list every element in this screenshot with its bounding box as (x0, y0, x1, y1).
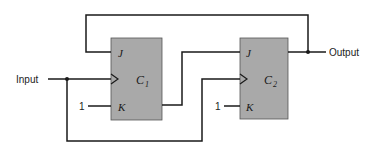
output-junction (306, 50, 310, 54)
c2-k-value: 1 (215, 101, 221, 112)
c1-k-pin: K (117, 101, 126, 113)
c2-subscript: 2 (273, 80, 277, 89)
circuit-diagram: Input Output 1 1 J K C 1 J K C 2 (0, 0, 380, 150)
c2-name: C (264, 73, 273, 87)
input-label: Input (16, 74, 38, 85)
c1-subscript: 1 (145, 80, 149, 89)
c1-k-value: 1 (79, 101, 85, 112)
output-label: Output (329, 47, 359, 58)
c2-k-pin: K (245, 101, 254, 113)
c1-name: C (136, 73, 145, 87)
